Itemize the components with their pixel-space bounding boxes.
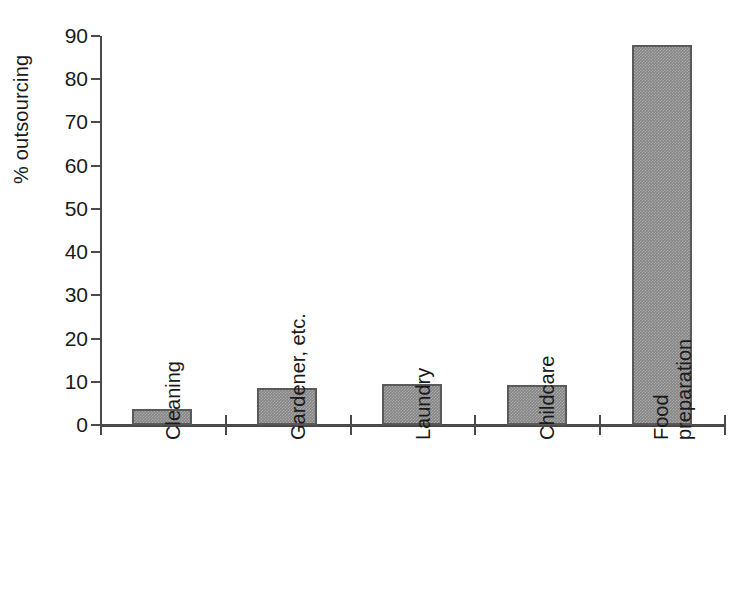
y-tick-mark (91, 35, 100, 37)
x-category-label: Childcare (536, 270, 588, 440)
y-tick-mark (91, 294, 100, 296)
x-category-label: Laundry (412, 270, 464, 440)
y-tick-label: 10 (42, 371, 88, 392)
y-axis-title: % outsourcing (10, 0, 34, 184)
x-tick-mark (350, 415, 352, 435)
y-tick-label: 60 (42, 155, 88, 176)
x-tick-mark (724, 415, 726, 435)
y-tick-mark (91, 424, 100, 426)
x-tick-mark (225, 415, 227, 435)
y-tick-mark (91, 208, 100, 210)
y-tick-label: 50 (42, 198, 88, 219)
y-tick-mark (91, 165, 100, 167)
y-tick-mark (91, 78, 100, 80)
x-tick-mark (474, 415, 476, 435)
y-tick-label: 30 (42, 284, 88, 305)
y-tick-label: 80 (42, 68, 88, 89)
y-tick-label: 90 (42, 25, 88, 46)
y-tick-label: 40 (42, 241, 88, 262)
y-tick-label: 70 (42, 111, 88, 132)
bar-chart-figure: % outsourcing 9080706050403020100 Cleani… (0, 0, 738, 602)
y-tick-mark (91, 121, 100, 123)
x-category-label: Food preparation (650, 270, 702, 440)
y-tick-label: 20 (42, 328, 88, 349)
y-tick-mark (91, 381, 100, 383)
y-tick-label: 0 (42, 414, 88, 435)
x-category-label: Cleaning (162, 270, 214, 440)
x-category-label: Gardener, etc. (287, 270, 339, 440)
x-tick-mark (599, 415, 601, 435)
x-tick-mark (100, 415, 102, 435)
y-tick-mark (91, 338, 100, 340)
y-tick-mark (91, 251, 100, 253)
